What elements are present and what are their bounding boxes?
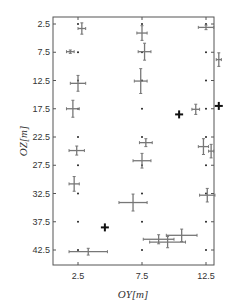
grid-point-dot — [141, 136, 143, 138]
grid-point-dot — [141, 249, 143, 251]
y-axis-label: OZ[m] — [17, 126, 29, 157]
grid-point-dot — [205, 249, 207, 251]
grid-point-dot — [77, 249, 79, 251]
grid-point-dot — [141, 221, 143, 223]
grid-point-dot — [141, 193, 143, 195]
grid-point-dot — [205, 108, 207, 110]
grid-point-dot — [205, 164, 207, 166]
grid-point-dot — [77, 23, 79, 25]
grid-point-dot — [77, 136, 79, 138]
grid-point-dot — [205, 51, 207, 53]
y-tick-label: 22.5 — [32, 132, 50, 142]
grid-point-dot — [141, 23, 143, 25]
grid-point-dot — [205, 221, 207, 223]
y-tick-label: 27.5 — [32, 160, 50, 170]
source-plus-marker — [215, 102, 223, 110]
grid-point-dot — [205, 80, 207, 82]
y-tick-label: 42.5 — [32, 245, 50, 255]
scatter-chart: 2.57.512.517.522.527.532.537.542.5 2.57.… — [0, 0, 244, 308]
y-tick-label: 7.5 — [37, 47, 50, 57]
plot-area — [53, 17, 214, 265]
y-tick-label: 37.5 — [32, 217, 50, 227]
grid-point-dot — [77, 221, 79, 223]
y-tick-label: 17.5 — [32, 104, 50, 114]
y-tick-label: 12.5 — [32, 76, 50, 86]
grid-point-dot — [77, 164, 79, 166]
x-tick-label: 7.5 — [136, 271, 149, 281]
grid-point-dot — [141, 108, 143, 110]
grid-point-dot — [77, 51, 79, 53]
errorbar-cross — [216, 53, 221, 67]
grid-point-dot — [77, 193, 79, 195]
x-tick-label: 12.5 — [197, 271, 215, 281]
y-tick-label: 32.5 — [32, 189, 50, 199]
x-tick-label: 2.5 — [72, 271, 85, 281]
x-axis-label: OY[m] — [118, 288, 149, 300]
y-tick-label: 2.5 — [37, 19, 50, 29]
grid-point-dot — [205, 136, 207, 138]
